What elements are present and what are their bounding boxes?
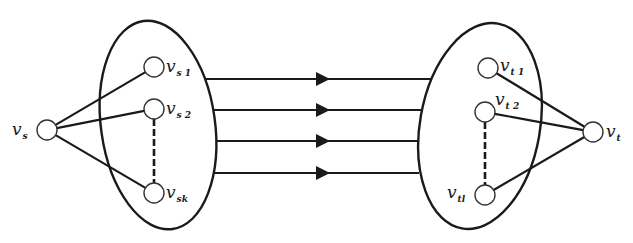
edge-v_tl-vt	[494, 137, 585, 190]
left-set-ellipse	[87, 13, 229, 237]
node-v-t1	[478, 58, 498, 78]
label-v-t: vt	[606, 121, 622, 143]
arrow-head-icon	[316, 103, 330, 117]
right-set-ellipse	[403, 13, 557, 239]
edge-vs-v_sk	[56, 135, 146, 188]
label-v-s: vs	[12, 119, 28, 141]
label-v-s1: vs 1	[166, 56, 191, 78]
flow-network-diagram: vsvtvs 1vs 2vskvt 1vt 2vtl	[0, 0, 633, 243]
arrow-head-icon	[316, 134, 330, 148]
label-v-tl: vtl	[447, 182, 466, 204]
node-v-t	[583, 122, 603, 142]
node-v-sk	[144, 183, 164, 203]
label-v-sk: vsk	[166, 182, 188, 204]
arrow-head-icon	[316, 166, 330, 180]
label-v-t1: vt 1	[500, 55, 524, 77]
label-v-t2: vt 2	[495, 89, 519, 111]
node-v-s1	[144, 57, 164, 77]
node-v-t2	[475, 102, 495, 122]
label-v-s2: vs 2	[166, 98, 191, 120]
cross-edges	[205, 72, 432, 180]
node-v-s	[37, 120, 57, 140]
node-v-tl	[475, 185, 495, 205]
node-v-s2	[144, 99, 164, 119]
edge-v_t2-vt	[495, 114, 583, 130]
arrow-head-icon	[316, 72, 330, 86]
